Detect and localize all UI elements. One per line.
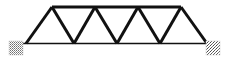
truss-diagram-figure bbox=[0, 0, 230, 64]
right-support bbox=[206, 41, 220, 55]
left-support bbox=[9, 41, 23, 55]
truss-diagram-canvas bbox=[0, 0, 230, 64]
